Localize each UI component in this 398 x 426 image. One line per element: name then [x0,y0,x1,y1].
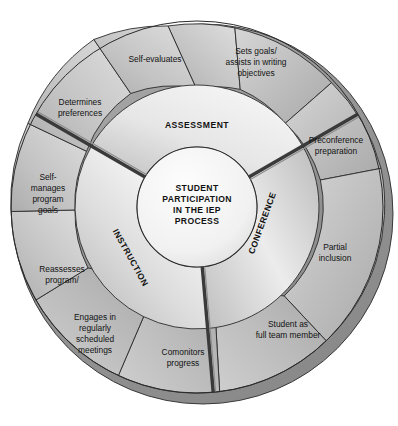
label-line: Comonitors [162,347,205,357]
label-line: Engages in [74,312,116,322]
label-determines-preferences: Determines preferences [58,97,102,118]
label-line: assists in writing [226,57,287,67]
label-line: objectives [237,68,274,78]
label-line: manages [31,183,65,193]
label-line: preparation [315,146,358,156]
label-reassesses-program: Reassesses program/ [39,264,85,285]
hub-line-1: STUDENT [175,183,218,193]
label-line: inclusion [319,253,352,263]
label-line: scheduled [76,334,115,344]
label-line: Determines [59,97,102,107]
hub-line-2: PARTICIPATION [162,194,231,204]
iep-participation-wheel: STUDENT PARTICIPATION IN THE IEP PROCESS… [0,0,398,426]
label-preconference-preparation: Preconference preparation [309,135,364,156]
label-engages-in-meetings: Engages in regularly scheduled meetings [74,312,116,355]
label-line: Self- [39,172,56,182]
label-line: Partial [323,242,347,252]
hub-line-3: IN THE IEP [173,205,221,215]
label-line: full team member [256,330,321,340]
label-line: regularly [79,323,112,333]
hub-line-4: PROCESS [175,216,219,226]
label-line: Reassesses [39,264,85,274]
label-line: preferences [58,108,102,118]
label-self-evaluates: Self-evaluates [128,54,181,64]
label-line: program [32,194,63,204]
label-line: program/ [45,275,79,285]
label-comonitors-progress: Comonitors progress [162,347,205,368]
label-line: Self-evaluates [128,54,181,64]
band-label-assessment: ASSESSMENT [165,120,229,130]
label-line: Preconference [309,135,364,145]
label-line: progress [167,358,200,368]
label-line: goals [38,205,58,215]
diagram-canvas: STUDENT PARTICIPATION IN THE IEP PROCESS… [0,0,398,426]
label-line: Sets goals/ [235,46,277,56]
label-partial-inclusion: Partial inclusion [319,242,352,263]
label-line: Student as [268,319,308,329]
